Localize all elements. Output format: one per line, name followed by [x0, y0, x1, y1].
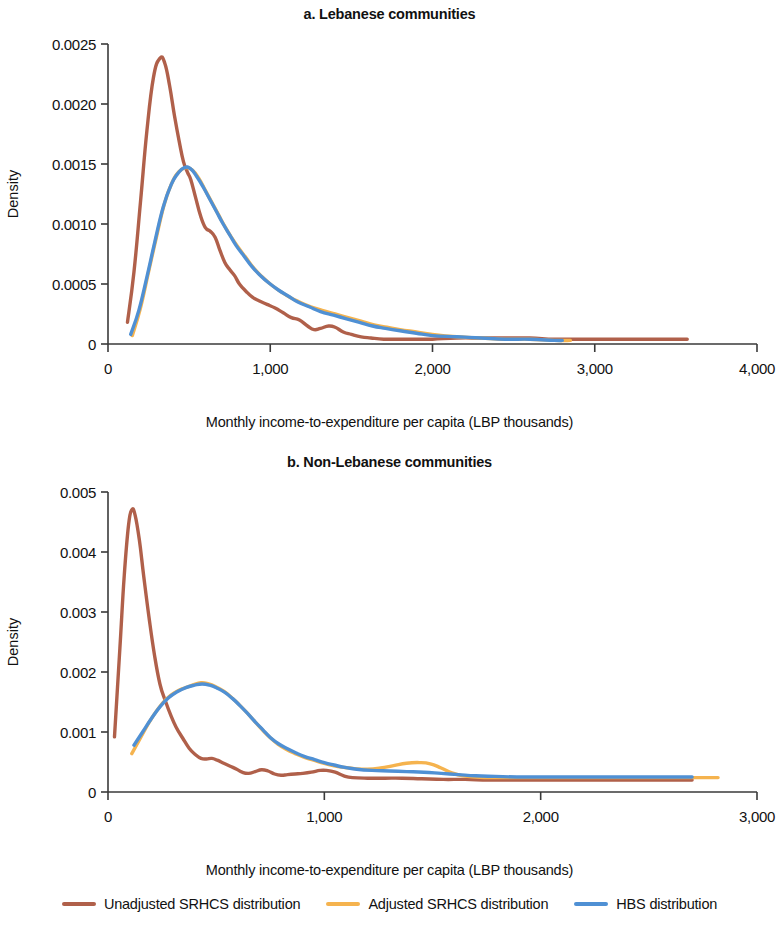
series-line-adjusted	[132, 168, 570, 341]
x-tick-label: 3,000	[739, 808, 775, 825]
legend-item-adjusted: Adjusted SRHCS distribution	[326, 896, 548, 912]
legend-swatch-adjusted-icon	[326, 902, 360, 906]
chart-panel-non-lebanese: b. Non-Lebanese communities 00.0010.0020…	[0, 448, 779, 893]
y-tick-label: 0.0015	[52, 156, 96, 173]
y-tick-label: 0.004	[60, 544, 96, 561]
y-tick-label: 0.0005	[52, 276, 96, 293]
legend-label-adjusted: Adjusted SRHCS distribution	[368, 896, 548, 912]
y-tick-label: 0	[88, 336, 96, 353]
series-line-unadjusted	[114, 509, 692, 780]
y-tick-label: 0.001	[60, 724, 96, 741]
x-tick-label: 0	[104, 808, 112, 825]
legend-label-unadjusted: Unadjusted SRHCS distribution	[104, 896, 301, 912]
legend-swatch-hbs-icon	[574, 902, 608, 906]
series-line-adjusted	[132, 683, 718, 778]
y-tick-label: 0.0010	[52, 216, 96, 233]
legend-label-hbs: HBS distribution	[616, 896, 717, 912]
density-comparison-figure: a. Lebanese communities 00.00050.00100.0…	[0, 0, 779, 927]
y-tick-label: 0.005	[60, 484, 96, 501]
y-tick-label: 0.003	[60, 604, 96, 621]
panel-a-svg: 00.00050.00100.00150.00200.002501,0002,0…	[0, 22, 779, 412]
x-tick-label: 1,000	[252, 360, 288, 377]
panel-b-xaxis-label: Monthly income-to-expenditure per capita…	[0, 862, 779, 878]
y-tick-label: 0	[88, 784, 96, 801]
legend-swatch-unadjusted-icon	[62, 902, 96, 906]
figure-legend: Unadjusted SRHCS distribution Adjusted S…	[0, 896, 779, 912]
panel-a-xaxis-label: Monthly income-to-expenditure per capita…	[0, 414, 779, 430]
x-tick-label: 4,000	[739, 360, 775, 377]
legend-item-unadjusted: Unadjusted SRHCS distribution	[62, 896, 301, 912]
chart-panel-lebanese: a. Lebanese communities 00.00050.00100.0…	[0, 0, 779, 445]
y-tick-label: 0.0025	[52, 36, 96, 53]
y-axis-title: Density	[5, 617, 21, 666]
x-tick-label: 3,000	[577, 360, 613, 377]
x-tick-label: 0	[104, 360, 112, 377]
x-tick-label: 2,000	[523, 808, 559, 825]
x-tick-label: 2,000	[414, 360, 450, 377]
y-axis-title: Density	[5, 169, 21, 218]
panel-b-title: b. Non-Lebanese communities	[0, 448, 779, 470]
x-tick-label: 1,000	[306, 808, 342, 825]
panel-b-plot-area: 00.0010.0020.0030.0040.00501,0002,0003,0…	[0, 470, 779, 860]
legend-item-hbs: HBS distribution	[574, 896, 717, 912]
y-tick-label: 0.002	[60, 664, 96, 681]
panel-a-title: a. Lebanese communities	[0, 0, 779, 22]
panel-b-svg: 00.0010.0020.0030.0040.00501,0002,0003,0…	[0, 470, 779, 860]
panel-a-plot-area: 00.00050.00100.00150.00200.002501,0002,0…	[0, 22, 779, 412]
y-tick-label: 0.0020	[52, 96, 96, 113]
